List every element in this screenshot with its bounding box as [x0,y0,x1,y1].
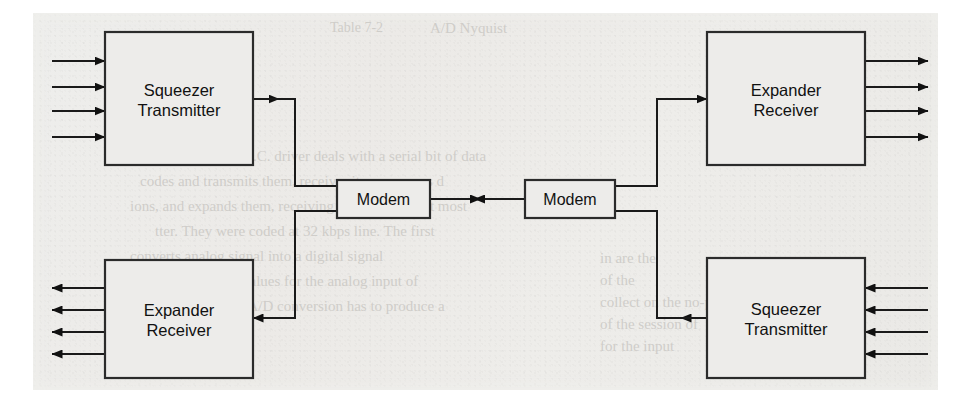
block-outline-bottom-left-expander [105,260,253,378]
box-layer: SqueezerTransmitterExpanderReceiverExpan… [105,32,865,378]
modem-modem-right: Modem [525,180,615,218]
diagram-canvas: SqueezerTransmitterExpanderReceiverExpan… [0,0,970,406]
block-bottom-left-expander: ExpanderReceiver [105,260,253,378]
block-label-line2-top-right-expander: Receiver [753,101,819,119]
modem-label-modem-right: Modem [543,191,596,208]
block-outline-bottom-right-squeezer [707,258,865,378]
left-modem-to-bl-expander [253,211,337,318]
br-squeezer-to-right-modem [615,211,707,318]
right-modem-to-tr-expander [615,99,707,186]
tl-squeezer-to-left-modem [253,99,337,186]
block-outline-top-right-expander [707,32,865,165]
block-label-line2-bottom-left-expander: Receiver [146,321,212,339]
block-label-line1-bottom-left-expander: Expander [144,301,215,319]
block-label-line2-top-left-squeezer: Transmitter [138,101,221,119]
block-top-left-squeezer: SqueezerTransmitter [105,32,253,165]
block-top-right-expander: ExpanderReceiver [707,32,865,165]
block-bottom-right-squeezer: SqueezerTransmitter [707,258,865,378]
block-label-line2-bottom-right-squeezer: Transmitter [745,320,828,338]
modem-label-modem-left: Modem [357,191,410,208]
block-diagram-figure: A/D NyquistTable 7-2The H.C. driver deal… [0,0,970,406]
block-label-line1-top-right-expander: Expander [751,81,822,99]
block-label-line1-top-left-squeezer: Squeezer [144,81,215,99]
block-label-line1-bottom-right-squeezer: Squeezer [751,300,822,318]
modem-modem-left: Modem [337,180,430,218]
block-outline-top-left-squeezer [105,32,253,165]
